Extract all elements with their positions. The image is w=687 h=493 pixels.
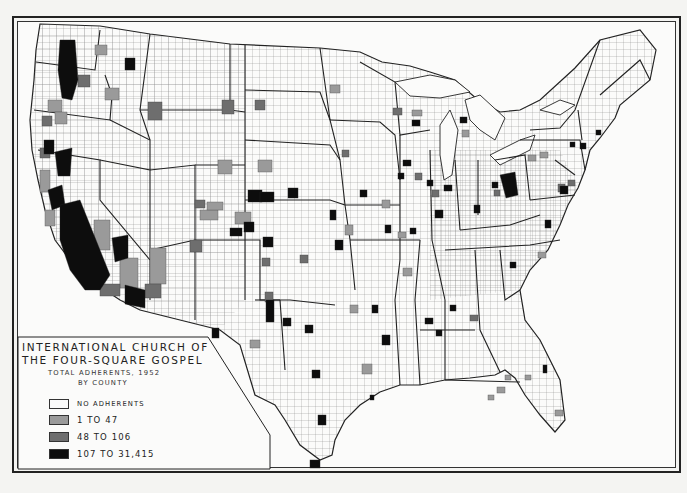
legend-item-no-adherents: NO ADHERENTS [49, 398, 145, 410]
swatch-black-icon [49, 449, 69, 459]
legend-item-107-to-31415: 107 TO 31,415 [49, 448, 155, 460]
legend-title-line2: THE FOUR-SQUARE GOSPEL [22, 354, 203, 366]
legend-title-line1: INTERNATIONAL CHURCH OF [22, 341, 209, 353]
swatch-light-gray-icon [49, 415, 69, 425]
legend-label: 107 TO 31,415 [77, 449, 155, 459]
legend-subtitle-line1: TOTAL ADHERENTS, 1952 [48, 369, 160, 377]
legend-label: 1 TO 47 [77, 415, 118, 425]
swatch-white-icon [49, 399, 69, 409]
legend-label: 48 TO 106 [77, 432, 131, 442]
map-legend: INTERNATIONAL CHURCH OF THE FOUR-SQUARE … [18, 338, 268, 468]
legend-label: NO ADHERENTS [77, 400, 145, 408]
legend-item-1-to-47: 1 TO 47 [49, 414, 118, 426]
legend-subtitle-line2: BY COUNTY [78, 379, 128, 387]
swatch-dark-gray-icon [49, 432, 69, 442]
legend-item-48-to-106: 48 TO 106 [49, 431, 131, 443]
